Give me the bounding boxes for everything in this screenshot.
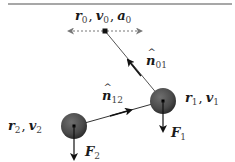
normal-01-arrow <box>128 60 141 76</box>
particle1-label: r1,v1 <box>185 90 219 107</box>
particle2-label: r2,v2 <box>8 118 42 135</box>
force1-label: F1 <box>170 125 186 142</box>
particle-interaction-diagram: r0,v0,a0 n01 ^ n12 ^ F1 r1,v1 F2 r2,v2 <box>0 0 235 162</box>
force2-label: F2 <box>84 144 100 161</box>
particle0-label: r0,v0,a0 <box>75 8 132 25</box>
particle0-point <box>103 29 108 34</box>
normal-01-hat: ^ <box>148 46 156 57</box>
normal-12-arrow <box>110 110 131 116</box>
normal-12-hat: ^ <box>104 81 112 92</box>
